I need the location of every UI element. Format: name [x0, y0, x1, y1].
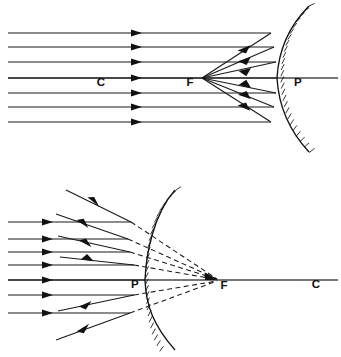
label-center-of-curvature-convex: C [312, 278, 321, 290]
arrowhead-icon [42, 262, 53, 269]
reflected-ray [58, 236, 130, 252]
arrowhead-icon [131, 90, 142, 97]
ray-diagram-svg: C F P [0, 0, 341, 357]
virtual-rays-convex [128, 222, 218, 313]
reflected-ray [202, 33, 271, 78]
virtual-ray [128, 239, 217, 279]
label-pole-concave: P [294, 76, 302, 88]
concave-mirror-diagram: C F P [8, 3, 338, 152]
arrowhead-icon [131, 119, 142, 126]
arrowhead-icon [131, 59, 142, 66]
arrowhead-icon [238, 91, 251, 99]
reflected-ray [66, 190, 131, 222]
arrowhead-icon [131, 44, 142, 51]
virtual-ray [130, 252, 217, 279]
reflected-ray [56, 313, 130, 340]
arrowhead-icon [42, 236, 53, 243]
arrowhead-icon [131, 104, 142, 111]
reflected-ray [58, 295, 134, 311]
arrowhead-icon [77, 219, 89, 228]
arrowhead-icon [81, 254, 94, 261]
virtual-ray [130, 281, 217, 313]
arrowhead-icon [42, 249, 53, 256]
arrowhead-icon [238, 57, 251, 65]
arrowhead-icon [42, 219, 53, 226]
reflected-ray [56, 214, 128, 239]
label-pole-convex: P [131, 278, 139, 290]
virtual-ray [131, 222, 217, 279]
convex-mirror-diagram: P F C [8, 187, 338, 352]
arrowhead-icon [79, 301, 92, 310]
incident-rays-convex [8, 219, 145, 317]
arrowhead-icon [42, 292, 53, 299]
arrowhead-icon [42, 310, 53, 317]
label-focus-concave: F [186, 76, 193, 88]
reflected-ray [60, 257, 134, 265]
incident-rays-concave [8, 30, 277, 126]
arrowhead-icon [131, 75, 142, 82]
reflected-ray [202, 62, 276, 78]
label-center-of-curvature-concave: C [97, 76, 106, 88]
label-focus-convex: F [220, 279, 227, 291]
arrowhead-icon [42, 277, 53, 284]
convex-mirror-hatching [145, 187, 181, 352]
optics-figure: C F P [0, 0, 341, 357]
arrowhead-icon [131, 30, 142, 37]
